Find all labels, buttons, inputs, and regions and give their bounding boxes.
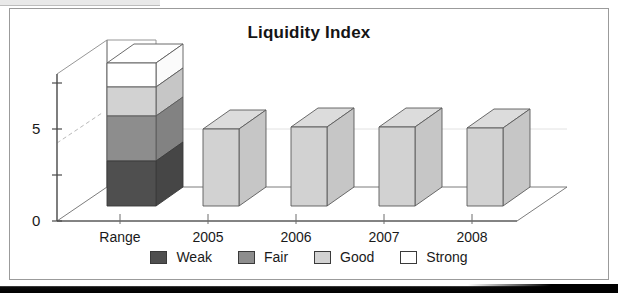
legend-label-good: Good: [340, 249, 374, 265]
category-label-2008: 2008: [434, 229, 510, 245]
category-label-2006: 2006: [258, 229, 334, 245]
legend-label-strong: Strong: [426, 249, 467, 265]
legend-swatch-strong-icon: [400, 251, 417, 264]
y-axis-label-0: 0: [32, 212, 40, 229]
range-good-front: [107, 87, 156, 116]
legend-item-weak[interactable]: Weak: [150, 249, 212, 265]
bar-2008-front: [467, 128, 503, 206]
legend-item-fair[interactable]: Fair: [238, 249, 288, 265]
category-label-2005: 2005: [170, 229, 246, 245]
legend-item-strong[interactable]: Strong: [400, 249, 467, 265]
category-label-range: Range: [82, 229, 158, 245]
legend-label-weak: Weak: [176, 249, 212, 265]
legend-item-good[interactable]: Good: [314, 249, 374, 265]
scan-edge-artifact: [0, 0, 160, 6]
category-label-2007: 2007: [346, 229, 422, 245]
range-fair-front: [107, 116, 156, 161]
range-weak-front: [107, 161, 156, 206]
legend-swatch-weak-icon: [150, 251, 167, 264]
range-strong-front: [107, 63, 156, 87]
bar-2005-front: [203, 129, 239, 206]
chart-legend: Weak Fair Good Strong: [10, 249, 608, 265]
chart-frame: Liquidity Index: [9, 8, 609, 280]
legend-swatch-fair-icon: [238, 251, 255, 264]
scan-bottom-band: [0, 284, 618, 293]
plot-area: 0 5 Range 2005 2006 2007 2008: [10, 9, 610, 281]
y-axis-label-5: 5: [32, 120, 40, 137]
legend-swatch-good-icon: [314, 251, 331, 264]
legend-label-fair: Fair: [264, 249, 288, 265]
gridline-depth-5: [57, 113, 102, 143]
bar-2007-front: [379, 127, 415, 206]
bar-2006-front: [291, 127, 327, 206]
